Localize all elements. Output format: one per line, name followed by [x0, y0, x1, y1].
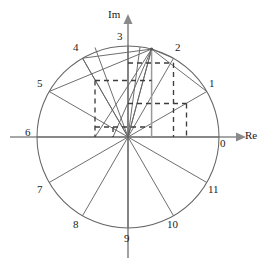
point-label-6: 6 — [25, 127, 31, 138]
spoke-10 — [128, 137, 174, 216]
point-label-2: 2 — [175, 42, 181, 53]
point-label-1: 1 — [209, 78, 215, 89]
point-label-11: 11 — [208, 184, 219, 195]
ray-origin-near-top — [128, 47, 140, 137]
point-label-8: 8 — [73, 219, 79, 230]
imaginary-axis-arrow-icon — [124, 14, 133, 24]
chord-apex-to-2 — [152, 49, 174, 58]
point-label-9: 9 — [124, 233, 130, 244]
complex-plane-unit-circle-figure: 0 1 2 3 4 5 6 7 8 9 10 11 Re Im — [0, 0, 278, 274]
origin-convergence-group — [83, 47, 152, 137]
point-label-7: 7 — [37, 184, 43, 195]
chord-apex-to-1 — [152, 49, 207, 91]
ray-origin-upper-left-b — [83, 58, 129, 137]
spoke-2 — [128, 58, 174, 137]
real-axis-label: Re — [245, 130, 257, 141]
apex-point-marker — [150, 48, 153, 51]
spoke-11 — [128, 137, 207, 183]
unit-circle-diagram — [0, 0, 278, 274]
point-label-10: 10 — [167, 219, 178, 230]
spoke-1 — [128, 92, 207, 138]
ray-origin-apex — [128, 49, 152, 137]
point-label-0: 0 — [220, 138, 226, 149]
point-label-3: 3 — [117, 31, 123, 42]
spoke-7 — [49, 137, 128, 183]
point-label-4: 4 — [73, 42, 79, 53]
imaginary-axis-label: Im — [108, 9, 120, 20]
spoke-8 — [83, 137, 129, 216]
point-label-5: 5 — [37, 78, 43, 89]
